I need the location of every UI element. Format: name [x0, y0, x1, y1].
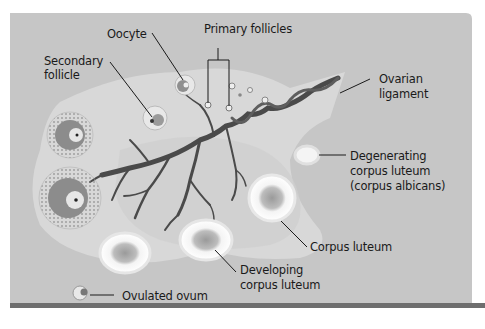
corpus-luteum — [249, 175, 295, 221]
label-degenerating-3: (corpus albicans) — [350, 179, 445, 193]
label-degenerating-1: Degenerating — [350, 149, 426, 163]
ovulated-ovum — [73, 286, 88, 300]
label-degenerating-2: corpus luteum — [350, 164, 430, 178]
label-ovarian-ligament-1: Ovarian — [379, 72, 423, 86]
oocyte-follicle — [175, 75, 195, 95]
bottom-bar — [10, 303, 485, 308]
label-ovarian-ligament-2: ligament — [379, 87, 428, 101]
label-secondary-follicle-2: follicle — [44, 68, 80, 82]
label-secondary-follicle-1: Secondary — [44, 54, 103, 68]
developing-corpus-luteum — [180, 220, 232, 260]
label-oocyte: Oocyte — [107, 27, 147, 41]
label-developing-2: corpus luteum — [240, 278, 320, 292]
label-primary-follicles: Primary follicles — [204, 22, 292, 36]
label-corpus-luteum: Corpus luteum — [310, 240, 392, 254]
label-developing-1: Developing — [240, 263, 303, 277]
large-follicle-1 — [47, 112, 93, 158]
corpus-albicans — [295, 146, 319, 164]
ruptured-follicle — [100, 233, 150, 273]
label-ovulated-ovum: Ovulated ovum — [122, 289, 208, 303]
large-follicle-2 — [39, 167, 101, 229]
